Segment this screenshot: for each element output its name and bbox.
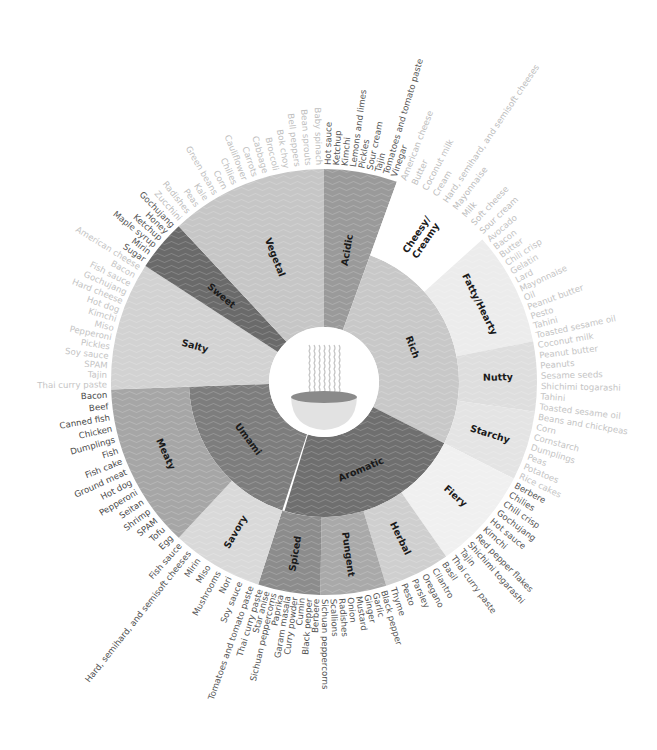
noodle-bowl-icon [269,327,379,437]
ingredient-label: Hard, semihard, and semisoft cheeses [441,62,542,205]
sunburst-svg: AcidicRichCheesy/CreamyFatty/HeartyNutty… [0,0,657,750]
ingredient-label: Sesame seeds [541,369,604,381]
ingredient-label: Hard, semihard, and semisoft cheeses [83,548,193,684]
ingredient-label: Bacon [81,390,108,402]
ingredient-label: Baby spinach [313,107,324,165]
ingredient-label: Sichuan peppercorns [320,599,330,690]
svg-text:Nutty: Nutty [483,371,514,383]
ingredient-label: Tajin [87,369,108,380]
segment-label-nutty: Nutty [483,371,514,383]
flavor-sunburst-chart: AcidicRichCheesy/CreamyFatty/HeartyNutty… [0,0,657,750]
ingredient-label: Beef [88,401,109,413]
ingredient-label: Peanuts [540,358,575,371]
ingredient-label: Shichimi togarashi [541,381,621,393]
broth-icon [291,391,357,403]
ingredient-label: Thai curry paste [36,379,107,390]
